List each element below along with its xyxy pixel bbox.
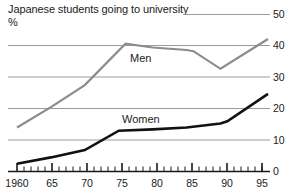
x-tick-label-95: 95 bbox=[252, 178, 272, 189]
x-tick-label-85: 85 bbox=[182, 178, 202, 189]
x-axis-major-ticks bbox=[17, 163, 262, 171]
y-tick-label-50: 50 bbox=[273, 9, 285, 20]
y-tick-label-0: 0 bbox=[273, 166, 279, 177]
x-tick-label-75: 75 bbox=[112, 178, 132, 189]
series-label-men: Men bbox=[130, 52, 151, 64]
y-tick-label-30: 30 bbox=[273, 72, 285, 83]
x-tick-label-1960: 1960 bbox=[3, 178, 31, 189]
chart-container: Japanese students going to university % bbox=[0, 0, 296, 196]
y-tick-label-20: 20 bbox=[273, 103, 285, 114]
y-tick-label-10: 10 bbox=[273, 135, 285, 146]
y-tick-label-40: 40 bbox=[273, 40, 285, 51]
series-label-women: Women bbox=[122, 113, 160, 125]
x-tick-label-80: 80 bbox=[147, 178, 167, 189]
chart-plot-area bbox=[0, 0, 296, 196]
x-tick-label-90: 90 bbox=[217, 178, 237, 189]
x-tick-label-65: 65 bbox=[42, 178, 62, 189]
x-tick-label-70: 70 bbox=[77, 178, 97, 189]
